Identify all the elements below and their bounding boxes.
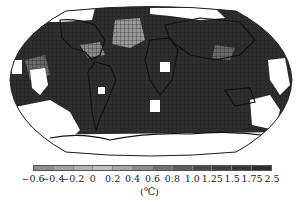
colorbar-tick-label: 0.4 — [125, 173, 140, 184]
world-map — [0, 0, 301, 160]
colorbar — [33, 165, 272, 171]
colorbar-segment — [252, 166, 271, 170]
colorbar-segment — [133, 166, 153, 170]
colorbar-unit: (℃) — [140, 186, 159, 197]
colorbar-segment — [153, 166, 173, 170]
colorbar-ticks: −0.6−0.4−0.200.20.40.60.81.01.251.51.752… — [18, 173, 288, 185]
colorbar-tick-label: 1.5 — [225, 173, 240, 184]
colorbar-tick-label: 1.0 — [185, 173, 200, 184]
colorbar-tick-label: 0.2 — [105, 173, 120, 184]
colorbar-tick-label: 0 — [90, 173, 96, 184]
colorbar-tick-label: 2.5 — [264, 173, 279, 184]
colorbar-segment — [193, 166, 213, 170]
colorbar-segment — [74, 166, 94, 170]
colorbar-tick-label: 1.75 — [242, 173, 263, 184]
colorbar-segment — [232, 166, 252, 170]
colorbar-segment — [173, 166, 193, 170]
colorbar-tick-label: −0.2 — [61, 173, 84, 184]
colorbar-tick-label: 0.8 — [165, 173, 180, 184]
colorbar-segment — [113, 166, 133, 170]
colorbar-segment — [212, 166, 232, 170]
colorbar-segment — [34, 166, 54, 170]
colorbar-segment — [54, 166, 74, 170]
temperature-anomaly-map — [0, 0, 301, 160]
colorbar-segment — [93, 166, 113, 170]
colorbar-tick-label: 1.25 — [202, 173, 223, 184]
colorbar-tick-label: 0.6 — [145, 173, 160, 184]
